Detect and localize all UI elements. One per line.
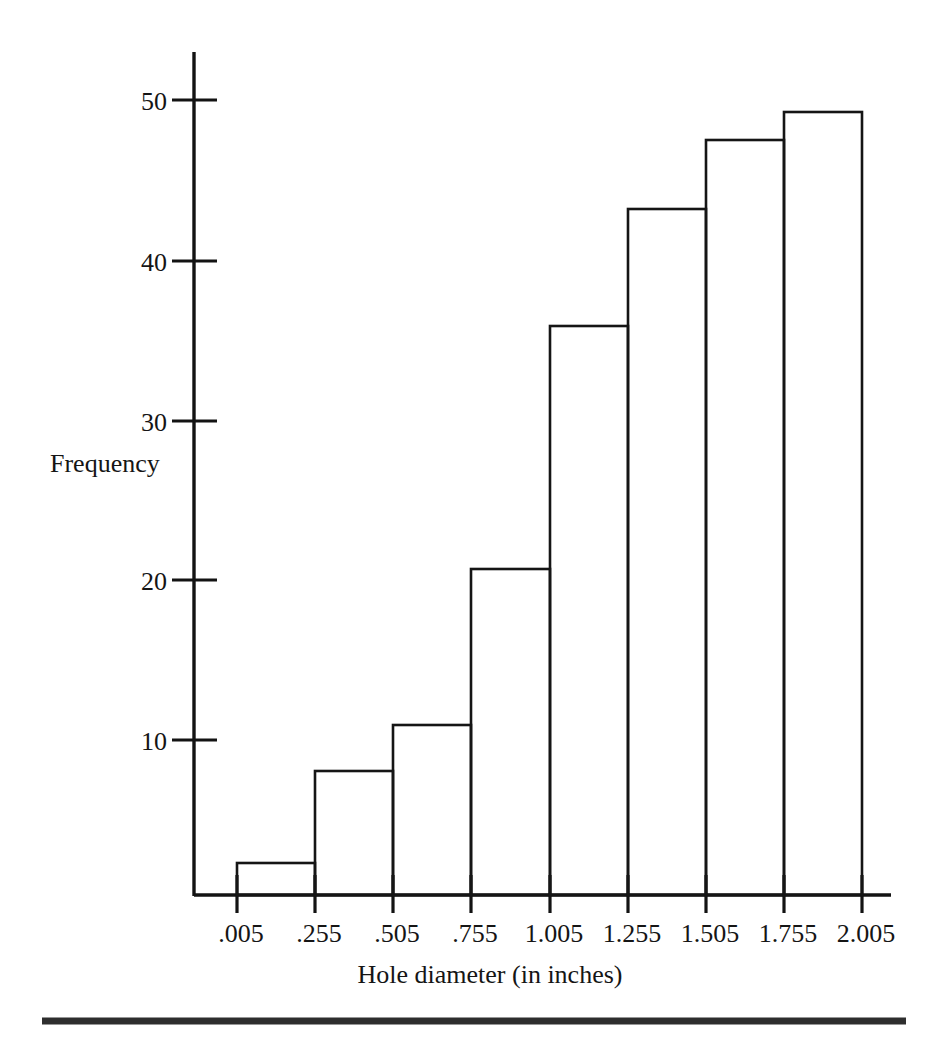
y-tick-label-10: 10 xyxy=(141,727,167,756)
x-tick-label-5: 1.255 xyxy=(603,919,662,948)
x-tick-label-7: 1.755 xyxy=(759,919,818,948)
x-tick-label-2: .505 xyxy=(374,919,420,948)
x-axis-title: Hole diameter (in inches) xyxy=(358,960,623,989)
histogram-figure: 50 40 30 20 10 Frequency .005 .255 .505 … xyxy=(0,0,941,1039)
x-tick-label-6: 1.505 xyxy=(681,919,740,948)
y-tick-label-40: 40 xyxy=(141,248,167,277)
histogram-bar xyxy=(315,771,393,895)
x-axis: .005 .255 .505 .755 1.005 1.255 1.505 1.… xyxy=(194,875,895,948)
histogram-chart: 50 40 30 20 10 Frequency .005 .255 .505 … xyxy=(0,0,941,1039)
histogram-bar xyxy=(393,725,471,895)
x-tick-label-0: .005 xyxy=(218,919,264,948)
y-tick-label-50: 50 xyxy=(141,87,167,116)
histogram-bar xyxy=(471,569,550,895)
x-tick-label-8: 2.005 xyxy=(837,919,896,948)
y-axis-title: Frequency xyxy=(50,449,160,478)
x-tick-label-4: 1.005 xyxy=(525,919,584,948)
histogram-bar xyxy=(628,209,706,895)
x-tick-label-3: .755 xyxy=(452,919,498,948)
histogram-bar xyxy=(706,140,784,895)
y-tick-label-30: 30 xyxy=(141,408,167,437)
histogram-bars xyxy=(237,112,862,895)
histogram-bar xyxy=(784,112,862,895)
histogram-bar xyxy=(237,863,315,895)
x-tick-label-1: .255 xyxy=(296,919,342,948)
y-tick-label-20: 20 xyxy=(141,567,167,596)
histogram-bar xyxy=(550,326,628,895)
